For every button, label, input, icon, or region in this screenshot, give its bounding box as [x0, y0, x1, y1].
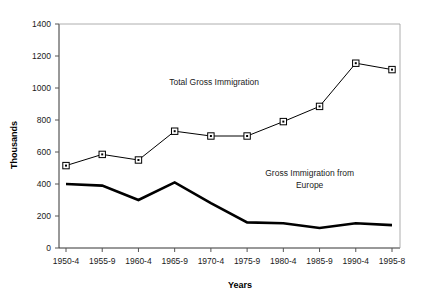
- y-tick-label: 1400: [32, 19, 51, 29]
- data-point-center: [174, 130, 176, 132]
- data-point-center: [65, 165, 67, 167]
- chart-page: 0200400600800100012001400 1950-41955-919…: [0, 0, 421, 296]
- x-tick-label: 1995-8: [379, 256, 406, 266]
- data-point-center: [391, 69, 393, 71]
- data-point-center: [319, 105, 321, 107]
- y-tick-label: 400: [37, 179, 51, 189]
- data-point-center: [137, 159, 139, 161]
- y-tick-label: 0: [46, 243, 51, 253]
- x-tick-label: 1950-4: [53, 256, 80, 266]
- y-tick-label: 600: [37, 147, 51, 157]
- x-tick-label: 1970-4: [198, 256, 225, 266]
- x-tick-label: 1955-9: [89, 256, 116, 266]
- series-annotation: Europe: [296, 180, 324, 190]
- data-point-center: [355, 62, 357, 64]
- data-point-center: [101, 153, 103, 155]
- data-point-center: [246, 135, 248, 137]
- y-tick-label: 800: [37, 115, 51, 125]
- x-tick-label: 1990-4: [343, 256, 370, 266]
- x-tick-label: 1960-4: [125, 256, 152, 266]
- x-axis-title: Years: [228, 280, 252, 290]
- y-axis-title: Thousands: [9, 121, 19, 169]
- series-annotation: Total Gross Immigration: [169, 77, 259, 87]
- x-tick-label: 1975-9: [234, 256, 261, 266]
- x-tick-label: 1980-4: [270, 256, 297, 266]
- data-point-center: [282, 121, 284, 123]
- immigration-line-chart: 0200400600800100012001400 1950-41955-919…: [0, 0, 421, 296]
- y-tick-label: 1000: [32, 83, 51, 93]
- y-tick-label: 1200: [32, 51, 51, 61]
- x-tick-label: 1965-9: [161, 256, 188, 266]
- data-point-center: [210, 135, 212, 137]
- y-tick-label: 200: [37, 211, 51, 221]
- series-annotation: Gross Immigration from: [265, 168, 354, 178]
- x-tick-label: 1985-9: [306, 256, 333, 266]
